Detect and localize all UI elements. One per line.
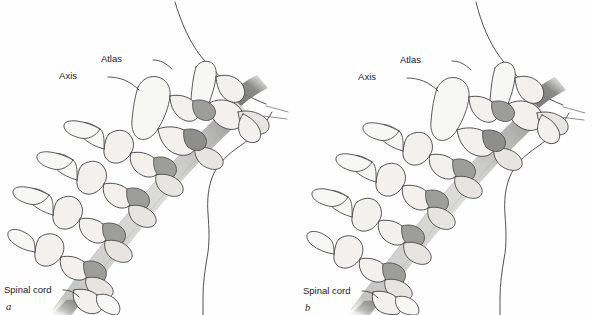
axis-leader bbox=[108, 77, 139, 90]
atlas-leader bbox=[153, 60, 172, 69]
label-atlas: Atlas bbox=[101, 53, 122, 64]
label-axis: Axis bbox=[358, 71, 376, 82]
label-atlas: Atlas bbox=[400, 54, 421, 65]
panel-b: Atlas Axis Spinal cord b bbox=[296, 0, 592, 315]
label-spinal-cord: Spinal cord bbox=[4, 284, 52, 295]
cervical-spine-figure: Atlas Axis Spinal cord a bbox=[0, 0, 592, 315]
panel-letter-b: b bbox=[305, 302, 310, 313]
label-spinal-cord: Spinal cord bbox=[303, 285, 351, 296]
panel-letter-a: a bbox=[6, 301, 11, 312]
axis-leader bbox=[407, 78, 438, 91]
label-axis: Axis bbox=[59, 70, 77, 81]
panel-a: Atlas Axis Spinal cord a bbox=[0, 0, 296, 315]
atlas-leader bbox=[452, 61, 471, 70]
